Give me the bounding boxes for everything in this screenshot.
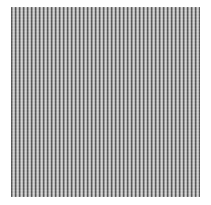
- striped-texture-swatch: [11, 7, 200, 197]
- paper-grain-overlay: [11, 7, 200, 197]
